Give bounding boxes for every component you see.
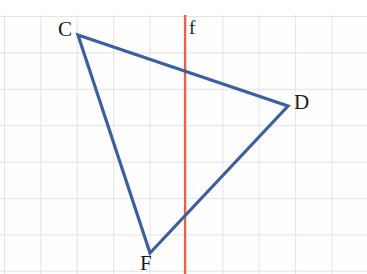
vertex-label-C: C xyxy=(58,19,72,40)
clipped-glyph-right xyxy=(50,0,55,11)
vertex-label-F: F xyxy=(140,253,152,274)
top-clipped-text-strip xyxy=(0,0,367,15)
geometry-diagram: C D F f xyxy=(0,0,367,274)
line-label-f: f xyxy=(189,17,195,38)
vertex-label-D: D xyxy=(294,92,309,113)
triangle-CDF-outline xyxy=(78,35,288,253)
clipped-glyph-left xyxy=(14,0,19,11)
figure-svg xyxy=(0,0,367,274)
